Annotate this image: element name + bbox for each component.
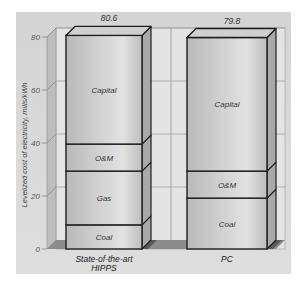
segment-label: Gas xyxy=(97,194,112,203)
y-tick-label-0: 0 xyxy=(36,245,41,254)
category-label: PC xyxy=(221,254,234,264)
bar-0 xyxy=(66,26,157,249)
y-axis-title: Levelized cost of electricity, mills/kWh xyxy=(20,83,29,208)
bar-segment-side-gas xyxy=(142,162,151,225)
total-value-label: 80.6 xyxy=(101,13,118,23)
bar-top-face xyxy=(187,29,276,38)
stacked-bar-chart: 020406080 CoalGasO&MCapital80.6State-of-… xyxy=(0,0,301,290)
segment-label: Capital xyxy=(215,100,240,109)
bar-segment-side-capital xyxy=(267,29,276,172)
bar-segment-side-coal xyxy=(267,189,276,249)
y-tick-label-60: 60 xyxy=(31,86,40,95)
segment-label: Coal xyxy=(96,233,113,242)
segment-label: O&M xyxy=(95,154,114,163)
bar-top-face xyxy=(66,26,151,35)
bar-segment-side-capital xyxy=(142,26,151,144)
segment-label: Coal xyxy=(219,220,236,229)
y-tick-label-20: 20 xyxy=(30,192,40,201)
segment-label: Capital xyxy=(92,86,117,95)
segment-label: O&M xyxy=(218,181,237,190)
bar-1 xyxy=(187,29,282,249)
y-tick-label-80: 80 xyxy=(31,33,40,42)
y-tick-label-40: 40 xyxy=(31,139,40,148)
total-value-label: 79.8 xyxy=(224,16,241,26)
category-label: HIPPS xyxy=(91,263,117,273)
